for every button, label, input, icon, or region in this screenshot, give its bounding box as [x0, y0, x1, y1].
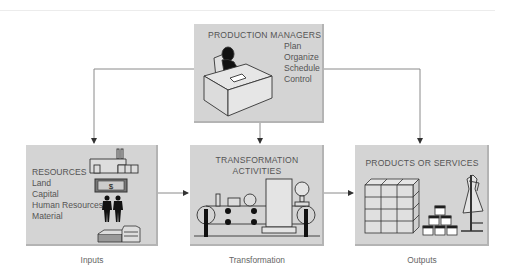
resources-box: RESOURCES Land Capital Human Resources M…	[26, 145, 158, 246]
edge-managers-to-inputs	[94, 69, 194, 143]
factory-icon	[88, 149, 140, 175]
people-icon	[100, 195, 126, 223]
products-title: PRODUCTS OR SERVICES	[355, 158, 489, 168]
boxes-icon	[363, 177, 421, 235]
machinery-icon	[194, 177, 320, 241]
transformation-caption: Transformation	[190, 255, 324, 265]
top-rule	[0, 10, 495, 11]
cans-pyramid-icon	[421, 205, 461, 237]
resource-human: Human Resources	[32, 200, 103, 211]
outputs-caption: Outputs	[355, 255, 489, 265]
resource-capital: Capital	[32, 189, 59, 200]
dollar-bill-icon: $	[94, 178, 128, 193]
resources-title: RESOURCES	[32, 167, 86, 178]
edge-managers-to-outputs	[323, 69, 420, 143]
inputs-caption: Inputs	[26, 255, 158, 265]
manager-at-desk-icon	[200, 40, 282, 120]
resource-land: Land	[32, 178, 51, 189]
managers-function-control: Control	[284, 74, 312, 85]
managers-title: PRODUCTION MANAGERS	[208, 30, 321, 40]
products-services-box: PRODUCTS OR SERVICES Out	[355, 145, 489, 246]
production-managers-box: PRODUCTION MANAGERS Plan Organize Schedu…	[194, 24, 324, 123]
managers-function-organize: Organize	[284, 52, 319, 63]
transformation-box: TRANSFORMATION ACTIVITIES Transformation	[190, 145, 324, 246]
transformation-title-line1: TRANSFORMATION	[190, 155, 324, 165]
svg-text:$: $	[109, 182, 114, 191]
transformation-title-line2: ACTIVITIES	[190, 166, 324, 176]
dress-form-icon	[459, 173, 487, 235]
managers-function-plan: Plan	[284, 41, 301, 52]
material-stack-icon	[96, 224, 142, 244]
managers-function-schedule: Schedule	[284, 63, 320, 74]
resource-material: Material	[32, 211, 63, 222]
